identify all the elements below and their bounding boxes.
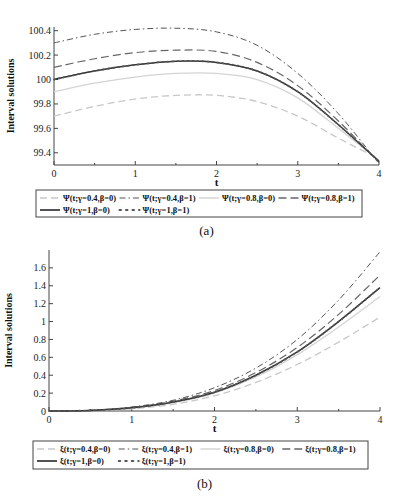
x-tick-label: 3 [295, 168, 300, 179]
chart-panel-b: 0123400.20.40.60.811.21.41.6tInterval so… [3, 250, 383, 491]
legend: ξ(t;γ=0.4,β=0)ξ(t;γ=0.4,β=1)ξ(t;γ=0.8,β=… [33, 441, 368, 469]
legend-entry: Ψ(t;γ=0.4,β=1) [143, 193, 196, 203]
y-tick-label: 0.2 [34, 388, 47, 399]
y-tick-label: 0.4 [34, 370, 47, 381]
y-tick-label: 100.4 [29, 25, 52, 36]
y-axis-label: Interval solutions [3, 293, 14, 368]
y-tick-label: 1.2 [34, 298, 47, 309]
series-line [54, 28, 379, 164]
series-line [49, 288, 380, 411]
x-tick-label: 0 [52, 168, 57, 179]
legend-entry: ξ(t;γ=0.4,β=0) [60, 444, 110, 454]
legend-entry: Ψ(t;γ=1,β=1) [143, 205, 190, 215]
y-tick-label: 0.8 [34, 334, 47, 345]
legend: Ψ(t;γ=0.4,β=0)Ψ(t;γ=0.4,β=1)Ψ(t;γ=0.8,β=… [36, 190, 362, 217]
legend-entry: ξ(t;γ=0.8,β=1) [305, 444, 355, 454]
x-tick-label: 4 [378, 414, 383, 425]
y-tick-label: 1 [41, 316, 46, 327]
legend-entry: Ψ(t;γ=0.8,β=0) [222, 193, 275, 203]
y-tick-label: 99.8 [34, 98, 52, 109]
series-line [49, 297, 380, 411]
series-group [49, 252, 380, 411]
y-axis-label: Interval solutions [5, 59, 16, 134]
legend-entry: Ψ(t;γ=0.4,β=0) [63, 193, 116, 203]
legend-entry: ξ(t;γ=0.4,β=1) [142, 444, 192, 454]
x-axis-label: t [215, 176, 219, 188]
x-tick-label: 0 [47, 414, 52, 425]
y-tick-label: 1.6 [34, 262, 47, 273]
legend-entry: ξ(t;γ=1,β=0) [60, 456, 104, 466]
y-tick-label: 99.4 [34, 147, 52, 158]
y-tick-label: 99.6 [34, 123, 52, 134]
axes: 0123499.499.699.8100100.2100.4 [29, 25, 382, 179]
y-tick-label: 0 [41, 406, 46, 417]
legend-entry: Ψ(t;γ=1,β=0) [63, 205, 110, 215]
legend-entry: ξ(t;γ=1,β=1) [142, 456, 186, 466]
series-line [49, 317, 380, 411]
chart-panel-a: 0123499.499.699.8100100.2100.4tInterval … [5, 25, 382, 238]
series-line [54, 73, 379, 160]
series-group [54, 28, 379, 164]
panel-caption: (b) [197, 476, 212, 491]
y-tick-label: 100.2 [29, 50, 52, 61]
series-line [49, 275, 380, 411]
panel-caption: (a) [199, 223, 213, 238]
y-tick-label: 1.4 [34, 280, 47, 291]
x-tick-label: 3 [295, 414, 300, 425]
legend-entry: ξ(t;γ=0.8,β=0) [224, 444, 274, 454]
legend-entry: Ψ(t;γ=0.8,β=1) [302, 193, 355, 203]
series-line [49, 252, 380, 411]
figure: 0123499.499.699.8100100.2100.4tInterval … [0, 0, 402, 502]
y-tick-label: 0.6 [34, 352, 47, 363]
y-tick-label: 100 [36, 74, 51, 85]
x-tick-label: 1 [133, 168, 138, 179]
axes: 0123400.20.40.60.811.21.41.6 [34, 250, 383, 425]
series-line [54, 50, 379, 163]
x-tick-label: 4 [377, 168, 382, 179]
x-axis-label: t [213, 422, 217, 434]
x-tick-label: 1 [129, 414, 134, 425]
series-line [54, 61, 379, 161]
series-line [54, 61, 379, 161]
